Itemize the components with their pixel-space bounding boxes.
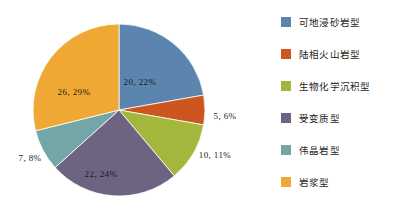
- pie-chart: 20, 22%5, 6%10, 11%22, 24%7, 8%26, 29% 可…: [0, 0, 395, 220]
- legend-item-label: 岩浆型: [299, 177, 330, 188]
- pie-plot-area: 20, 22%5, 6%10, 11%22, 24%7, 8%26, 29%: [0, 0, 268, 220]
- legend-item-label: 陆相火山岩型: [299, 49, 360, 60]
- legend-item-label: 生物化学沉积型: [299, 81, 370, 92]
- legend-item-label: 可地浸砂岩型: [299, 17, 360, 28]
- legend-item[interactable]: 伟晶岩型: [281, 144, 393, 156]
- legend-swatch-icon: [281, 145, 291, 155]
- legend-swatch-icon: [281, 81, 291, 91]
- legend-swatch-icon: [281, 177, 291, 187]
- legend-swatch-icon: [281, 49, 291, 59]
- legend-item[interactable]: 可地浸砂岩型: [281, 16, 393, 28]
- legend-item-label: 伟晶岩型: [299, 145, 340, 156]
- legend-swatch-icon: [281, 17, 291, 27]
- legend-item[interactable]: 受变质型: [281, 112, 393, 124]
- chart-legend: 可地浸砂岩型陆相火山岩型生物化学沉积型受变质型伟晶岩型岩浆型: [281, 16, 393, 208]
- legend-item[interactable]: 岩浆型: [281, 176, 393, 188]
- legend-item[interactable]: 陆相火山岩型: [281, 48, 393, 60]
- legend-item[interactable]: 生物化学沉积型: [281, 80, 393, 92]
- pie-svg: [0, 0, 268, 220]
- legend-item-label: 受变质型: [299, 113, 340, 124]
- legend-swatch-icon: [281, 113, 291, 123]
